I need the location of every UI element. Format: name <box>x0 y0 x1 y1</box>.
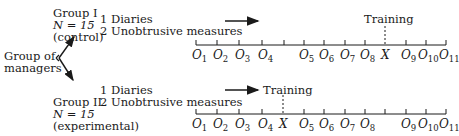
obs-label: O8 <box>360 48 375 64</box>
obs-label: O5 <box>299 117 314 133</box>
obs-label: O10 <box>418 48 439 64</box>
obs-label: O6 <box>319 48 334 64</box>
obs-label: O9 <box>401 48 416 64</box>
obs-label: O4 <box>258 117 273 133</box>
obs-label: O3 <box>235 48 250 64</box>
obs-label: O11 <box>439 48 459 64</box>
obs-label: O4 <box>258 48 273 64</box>
group-ii-measures: 1 Diaries 2 Unobtrusive measures <box>100 84 243 108</box>
obs-label: O5 <box>299 48 314 64</box>
obs-label: O1 <box>192 48 207 64</box>
obs-label: O11 <box>439 117 459 133</box>
obs-label: O7 <box>340 117 355 133</box>
obs-label: O3 <box>235 117 250 133</box>
obs-label: O2 <box>213 117 228 133</box>
obs-label: O1 <box>192 117 207 133</box>
group-i-training-label: Training <box>364 13 414 25</box>
obs-label: O9 <box>401 117 416 133</box>
source-line-2: managers <box>4 62 62 74</box>
source-group-label: Group of managers <box>4 50 62 74</box>
treatment-x-label: X <box>381 48 390 62</box>
group-i-measure-2: 2 Unobtrusive measures <box>100 25 243 37</box>
group-ii-type: (experimental) <box>53 120 139 132</box>
group-ii-measure-2: 2 Unobtrusive measures <box>100 96 243 108</box>
group-i-type: (control) <box>53 31 103 43</box>
group-ii-training-label: Training <box>263 84 313 96</box>
treatment-x-label: X <box>279 117 288 131</box>
obs-label: O8 <box>360 117 375 133</box>
group-i-measures: 1 Diaries 2 Unobtrusive measures <box>100 13 243 37</box>
obs-label: O6 <box>319 117 334 133</box>
obs-label: O10 <box>418 117 439 133</box>
group-i-header: Group I N = 15 (control) <box>53 7 103 43</box>
obs-label: O7 <box>340 48 355 64</box>
obs-label: O2 <box>213 48 228 64</box>
